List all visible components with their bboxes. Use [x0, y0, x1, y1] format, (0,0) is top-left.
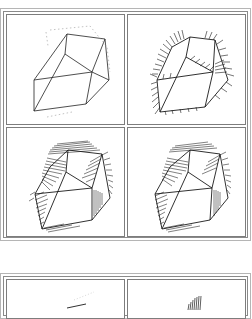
figure-bottom: [3, 276, 248, 316]
panel-bottom-left: [6, 279, 125, 319]
panel-dense-hatching-variant: [127, 127, 246, 237]
panel-wireframe: [6, 14, 125, 125]
dense-hatched-polyhedron-variant-figure: [128, 128, 246, 237]
wireframe-polyhedron-figure: [7, 15, 125, 125]
sparse-hatched-polyhedron-figure: [128, 15, 246, 125]
panel-dense-hatching: [6, 127, 125, 237]
bottom-left-partial-figure: [7, 280, 125, 319]
hatching-strokes: [29, 141, 113, 232]
panel-bottom-right: [127, 279, 246, 319]
panel-sparse-hatching: [127, 14, 246, 125]
bottom-right-partial-figure: [128, 280, 246, 319]
figure-top: [3, 11, 248, 238]
dense-hatched-polyhedron-figure: [7, 128, 125, 237]
